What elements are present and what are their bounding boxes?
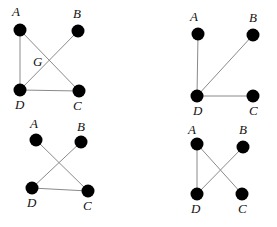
node-b bbox=[72, 25, 85, 38]
node-c bbox=[73, 85, 86, 98]
node-c bbox=[247, 90, 260, 103]
node-b bbox=[237, 141, 250, 154]
node-c bbox=[82, 185, 95, 198]
edge-d-c bbox=[20, 90, 79, 91]
node-b bbox=[247, 29, 260, 42]
edge-b-d bbox=[197, 35, 253, 96]
node-label-b: B bbox=[239, 122, 247, 137]
node-d bbox=[191, 90, 204, 103]
node-label-b: B bbox=[77, 119, 85, 134]
point-label-g: G bbox=[33, 54, 43, 69]
node-b bbox=[75, 136, 88, 149]
node-label-a: A bbox=[11, 4, 20, 19]
node-a bbox=[14, 24, 27, 37]
panel-4: ABDC bbox=[187, 122, 250, 216]
node-label-d: D bbox=[190, 201, 201, 216]
node-label-c: C bbox=[83, 198, 92, 213]
node-d bbox=[14, 84, 27, 97]
edge-a-d bbox=[197, 34, 198, 96]
node-label-c: C bbox=[249, 103, 258, 118]
node-label-a: A bbox=[189, 9, 198, 24]
node-c bbox=[236, 188, 249, 201]
node-label-c: C bbox=[238, 201, 247, 216]
node-a bbox=[191, 138, 204, 151]
graph-diagram: ABDCGABDCABDCABDC bbox=[0, 0, 277, 227]
node-a bbox=[192, 28, 205, 41]
node-label-d: D bbox=[26, 195, 37, 210]
edge-d-c bbox=[32, 188, 88, 191]
node-label-a: A bbox=[29, 116, 38, 131]
node-label-b: B bbox=[249, 10, 257, 25]
node-label-d: D bbox=[192, 103, 203, 118]
node-a bbox=[30, 134, 43, 147]
node-d bbox=[26, 182, 39, 195]
node-label-b: B bbox=[73, 6, 81, 21]
node-d bbox=[191, 188, 204, 201]
panel-1: ABDCG bbox=[11, 4, 86, 113]
node-label-c: C bbox=[73, 98, 82, 113]
node-label-d: D bbox=[14, 97, 25, 112]
panel-2: ABDC bbox=[189, 9, 260, 118]
panel-3: ABDC bbox=[26, 116, 95, 213]
edge-b-d bbox=[32, 142, 81, 188]
node-label-a: A bbox=[187, 122, 196, 137]
